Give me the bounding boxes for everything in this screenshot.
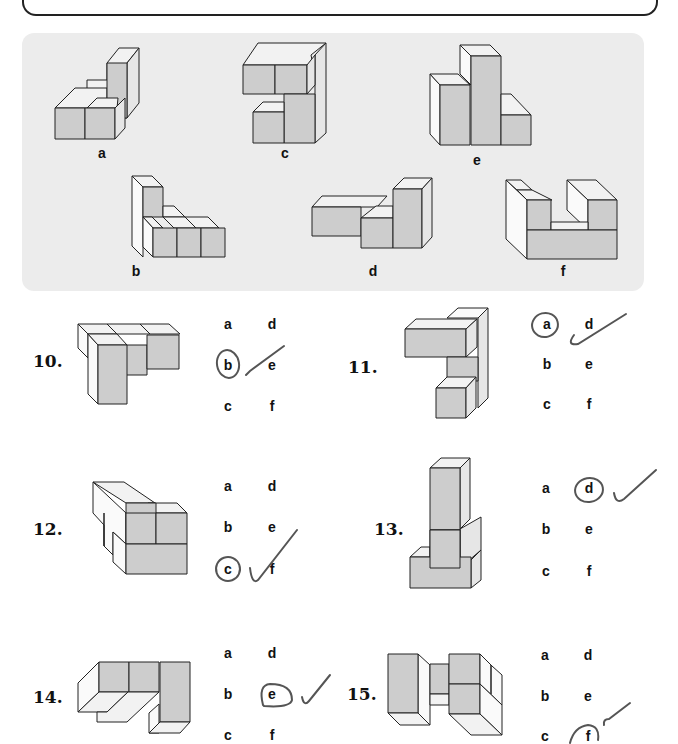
q15-option-a[interactable]: a [537, 647, 553, 663]
q15-option-d[interactable]: d [580, 647, 596, 663]
q15-option-e[interactable]: e [580, 688, 596, 704]
q15-option-c[interactable]: c [537, 728, 553, 744]
q15-option-b[interactable]: b [537, 688, 553, 704]
q15-option-f[interactable]: f [580, 728, 596, 744]
